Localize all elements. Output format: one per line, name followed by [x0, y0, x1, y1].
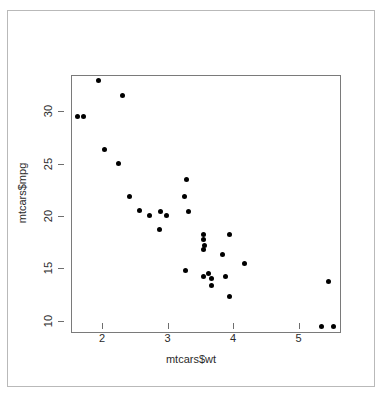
- x-tick-label: 5: [284, 332, 314, 344]
- data-point: [116, 161, 121, 166]
- y-tick-mark: [58, 216, 64, 217]
- x-tick-mark: [233, 323, 234, 329]
- data-point: [157, 227, 162, 232]
- data-point: [201, 247, 206, 252]
- y-tick-mark: [58, 111, 64, 112]
- data-point: [164, 213, 169, 218]
- y-tick-mark: [58, 164, 64, 165]
- x-tick-mark: [299, 323, 300, 329]
- data-point: [186, 209, 191, 214]
- data-point: [201, 232, 206, 237]
- screenshot-root: 2345 1015202530 mtcars$wt mtcars$mpg: [0, 0, 382, 396]
- data-point: [227, 294, 232, 299]
- plot-device-frame: 2345 1015202530: [7, 10, 375, 387]
- plot-area: [71, 75, 341, 333]
- plot-box-border: [71, 75, 341, 333]
- y-tick-label: 30: [42, 96, 54, 126]
- x-tick-mark: [168, 323, 169, 329]
- y-tick-label: 15: [42, 253, 54, 283]
- data-point: [137, 208, 142, 213]
- y-tick-label: 10: [42, 306, 54, 336]
- x-tick-label: 2: [87, 332, 117, 344]
- data-point: [220, 252, 225, 257]
- data-point: [223, 274, 228, 279]
- y-tick-label: 20: [42, 201, 54, 231]
- data-point: [158, 209, 163, 214]
- y-axis-label: mtcars$mpg: [16, 163, 28, 224]
- y-tick-label: 25: [42, 149, 54, 179]
- x-tick-label: 4: [218, 332, 248, 344]
- x-tick-mark: [102, 323, 103, 329]
- data-point: [201, 274, 206, 279]
- data-point: [326, 279, 331, 284]
- data-point: [183, 268, 188, 273]
- x-axis-label: mtcars$wt: [0, 353, 382, 365]
- x-tick-label: 3: [153, 332, 183, 344]
- data-point: [206, 271, 211, 276]
- y-tick-mark: [58, 268, 64, 269]
- data-point: [182, 194, 187, 199]
- y-tick-mark: [58, 321, 64, 322]
- data-point: [96, 78, 101, 83]
